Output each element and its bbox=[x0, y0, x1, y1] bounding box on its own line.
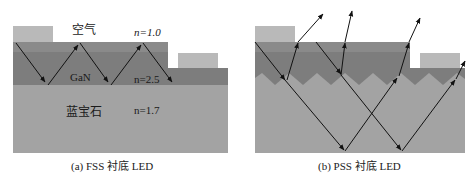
right-contact bbox=[178, 53, 218, 68]
gan-top-band bbox=[13, 42, 168, 52]
sapphire-substrate bbox=[255, 85, 465, 153]
label-air: 空气 bbox=[72, 22, 96, 37]
label-n-air: n=1.0 bbox=[134, 26, 161, 38]
left-contact bbox=[13, 26, 53, 42]
label-n-gan: n=2.5 bbox=[134, 73, 160, 85]
label-n-sapphire: n=1.7 bbox=[134, 104, 160, 116]
label-sapphire: 蓝宝石 bbox=[66, 105, 102, 119]
label-gan: GaN bbox=[70, 71, 91, 83]
panel-fss: 空气 n=1.0 GaN n=2.5 蓝宝石 n=1.7 bbox=[13, 22, 228, 153]
panel-pss bbox=[255, 11, 465, 153]
led-diagram: 空气 n=1.0 GaN n=2.5 蓝宝石 n=1.7 bbox=[0, 0, 475, 181]
left-contact bbox=[255, 26, 295, 42]
caption-fss: (a) FSS 衬底 LED bbox=[71, 157, 153, 173]
gan-step bbox=[168, 68, 228, 85]
gan-top-band bbox=[255, 42, 410, 52]
right-contact bbox=[420, 53, 460, 68]
caption-pss: (b) PSS 衬底 LED bbox=[318, 157, 401, 173]
sapphire-substrate bbox=[13, 85, 228, 153]
